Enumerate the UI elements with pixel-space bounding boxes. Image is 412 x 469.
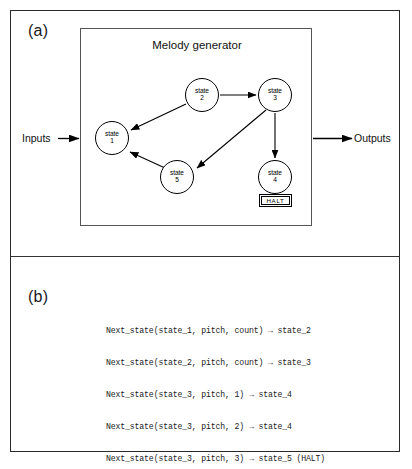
equation-line: Next_state(state_3, pitch, 1) → state_4 xyxy=(106,390,344,401)
equation-line: Next_state(state_3, pitch, 3) → state_5 … xyxy=(106,454,344,465)
state-node-5[interactable]: state 5 xyxy=(160,160,194,194)
next-state-equations: Next_state(state_1, pitch, count) → stat… xyxy=(106,305,344,469)
state-node-4-number: 4 xyxy=(273,177,277,184)
figure-root: (a) Melody generator sta xyxy=(0,0,412,469)
halt-box-inner: HALT xyxy=(261,196,290,205)
state-node-3-number: 3 xyxy=(273,95,277,102)
equation-line: Next_state(state_3, pitch, 2) → state_4 xyxy=(106,422,344,433)
state-node-1[interactable]: state 1 xyxy=(95,121,129,155)
panel-divider xyxy=(11,256,399,257)
equations-block: Next_state(state_1, pitch, count) → stat… xyxy=(106,284,344,469)
state-node-4[interactable]: state 4 xyxy=(258,160,292,194)
panel-label-b: (b) xyxy=(28,288,48,306)
halt-box: HALT xyxy=(259,194,292,207)
panel-label-a: (a) xyxy=(28,22,48,40)
equation-line: Next_state(state_1, pitch, count) → stat… xyxy=(106,326,344,337)
halt-label: HALT xyxy=(266,197,284,204)
state-node-2-number: 2 xyxy=(200,95,204,102)
state-node-1-number: 1 xyxy=(110,138,114,145)
state-node-5-number: 5 xyxy=(175,177,179,184)
equation-line: Next_state(state_2, pitch, count) → stat… xyxy=(106,358,344,369)
state-node-3[interactable]: state 3 xyxy=(258,78,292,112)
outputs-label: Outputs xyxy=(354,132,391,144)
melody-generator-title: Melody generator xyxy=(81,39,313,51)
inputs-label: Inputs xyxy=(22,132,51,144)
state-node-2[interactable]: state 2 xyxy=(185,78,219,112)
